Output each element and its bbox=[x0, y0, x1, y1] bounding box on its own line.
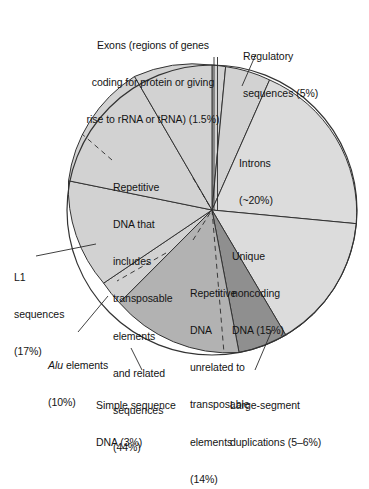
label-repetitive-dna-unrelated: Repetitive DNA unrelated to transposable… bbox=[190, 262, 262, 489]
label-l1-line2: sequences bbox=[14, 308, 90, 320]
label-introns-line2: (~20%) bbox=[239, 194, 329, 206]
label-exons-line3: rise to rRNA or tRNA) (1.5%) bbox=[64, 113, 242, 125]
label-repeat-unrel-line3: unrelated to bbox=[190, 361, 262, 373]
label-regulatory-line1: Regulatory bbox=[243, 50, 355, 62]
label-repeat-incl-line2: DNA that bbox=[113, 218, 199, 230]
label-regulatory-sequences: Regulatory sequences (5%) bbox=[243, 25, 355, 124]
label-repeat-incl-line1: Repetitive bbox=[113, 181, 199, 193]
label-introns-line1: Introns bbox=[239, 157, 329, 169]
label-alu-line1: Alu elements bbox=[48, 359, 158, 371]
label-exons-line1: Exons (regions of genes bbox=[64, 39, 242, 51]
label-repeat-incl-line4: transposable bbox=[113, 292, 199, 304]
label-exons-line2: coding for protein or giving bbox=[64, 76, 242, 88]
label-regulatory-line2: sequences (5%) bbox=[243, 87, 355, 99]
label-unique-line1: Unique bbox=[232, 250, 328, 262]
label-repeat-incl-line3: includes bbox=[113, 255, 199, 267]
label-l1-line1: L1 bbox=[14, 271, 90, 283]
label-repeat-unrel-line2: DNA bbox=[190, 324, 262, 336]
label-repeat-unrel-line4: transposable bbox=[190, 398, 262, 410]
label-repeat-unrel-line6: (14%) bbox=[190, 473, 262, 485]
label-exons: Exons (regions of genes coding for prote… bbox=[64, 14, 242, 150]
label-alu-rest: elements bbox=[63, 359, 108, 371]
label-repeat-unrel-line1: Repetitive bbox=[190, 287, 262, 299]
label-introns: Introns (~20%) bbox=[239, 132, 329, 231]
label-alu-italic: Alu bbox=[48, 359, 63, 371]
label-repeat-unrel-line5: elements bbox=[190, 436, 262, 448]
